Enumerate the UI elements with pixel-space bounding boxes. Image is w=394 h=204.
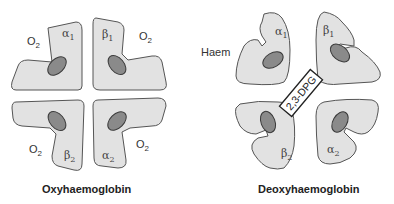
oxy-o2-label-1: O2 [27, 36, 40, 50]
oxy-o2-label-2: O2 [139, 31, 152, 45]
deoxy-alpha2-label: α2 [327, 144, 340, 158]
deoxy-subunit-alpha1 [236, 13, 290, 85]
oxy-alpha2-label: α2 [102, 150, 115, 164]
deoxy-alpha1-label: α1 [275, 26, 288, 40]
oxy-o2-label-3: O2 [29, 144, 42, 158]
deoxy-subunit-alpha2 [316, 99, 378, 164]
oxy-title: Oxyhaemoglobin [42, 183, 131, 195]
haemoglobin-diagram [0, 0, 394, 204]
deoxy-title: Deoxyhaemoglobin [258, 183, 359, 195]
deoxy-beta2-label: β2 [281, 148, 292, 162]
oxy-o2-label-4: O2 [136, 139, 149, 153]
haem-label: Haem [201, 47, 230, 58]
oxy-beta1-label: β1 [102, 29, 113, 43]
deoxy-beta1-label: β1 [323, 25, 334, 39]
oxy-alpha1-label: α1 [62, 28, 75, 42]
deoxy-subunit-beta1 [316, 12, 380, 85]
oxy-beta2-label: β2 [64, 150, 75, 164]
